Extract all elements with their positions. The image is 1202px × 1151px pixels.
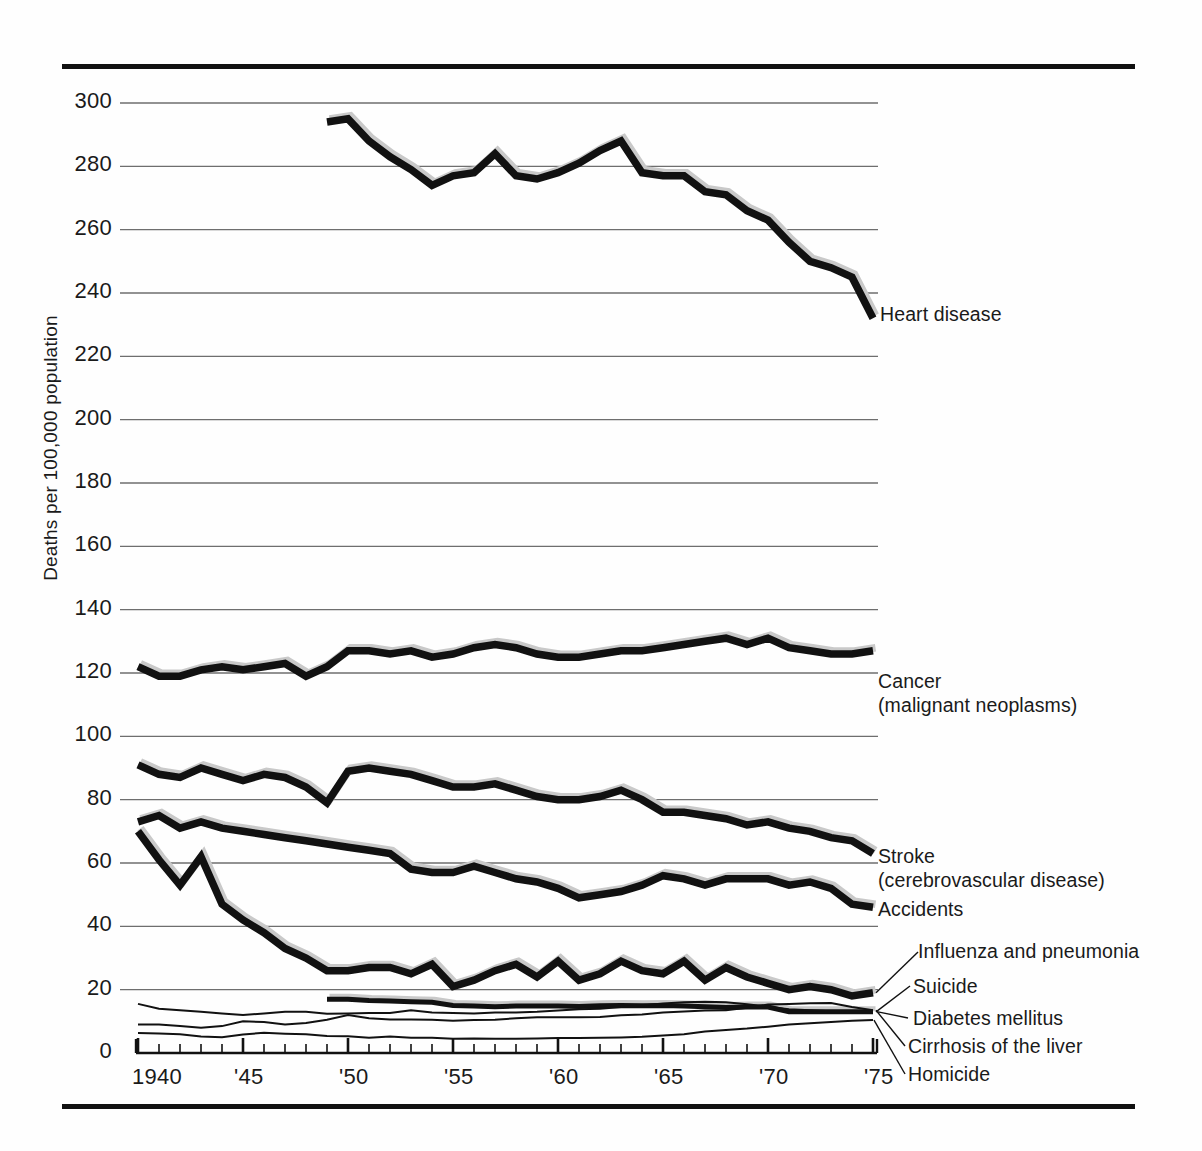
x-tick-label: 1940 (132, 1064, 182, 1090)
series-label-influenza: Influenza and pneumonia (918, 940, 1139, 964)
series-line (138, 765, 873, 854)
y-tick-label: 300 (48, 88, 112, 114)
series-line (327, 119, 873, 318)
leader-line (876, 1010, 905, 1046)
series-line (138, 831, 873, 996)
y-tick-label: 180 (48, 468, 112, 494)
leader-line (878, 1012, 908, 1018)
x-tick-label: '70 (759, 1064, 789, 1090)
series-label-suicide: Suicide (913, 975, 978, 999)
y-tick-label: 120 (48, 658, 112, 684)
series-shadow (141, 813, 876, 905)
leader-line (876, 986, 910, 1012)
series-label-cancer: Cancer (malignant neoplasms) (878, 670, 1077, 718)
y-tick-label: 260 (48, 215, 112, 241)
series-label-homicide: Homicide (908, 1063, 990, 1087)
x-tick-label: '65 (654, 1064, 684, 1090)
y-tick-label: 280 (48, 151, 112, 177)
series-label-diabetes: Diabetes mellitus (913, 1007, 1063, 1031)
y-tick-label: 200 (48, 405, 112, 431)
series-label-stroke: Stroke (cerebrovascular disease) (878, 845, 1105, 893)
y-tick-label: 140 (48, 595, 112, 621)
x-tick-label: '45 (234, 1064, 264, 1090)
series-label-stroke-line1: Stroke (878, 845, 935, 867)
x-tick-label: '75 (864, 1064, 894, 1090)
x-tick-label: '50 (339, 1064, 369, 1090)
y-tick-label: 80 (48, 785, 112, 811)
series-line (138, 638, 873, 676)
leader-line (876, 952, 918, 993)
series-label-cirrhosis: Cirrhosis of the liver (908, 1035, 1083, 1059)
y-tick-label: 20 (48, 975, 112, 1001)
series-label-cancer-line1: Cancer (878, 670, 941, 692)
y-tick-label: 160 (48, 531, 112, 557)
series-label-cancer-line2: (malignant neoplasms) (878, 694, 1077, 716)
series-label-stroke-line2: (cerebrovascular disease) (878, 869, 1105, 891)
figure-page: Deaths per 100,000 population Heart dise… (0, 0, 1202, 1151)
y-tick-label: 240 (48, 278, 112, 304)
y-tick-label: 220 (48, 341, 112, 367)
series-line (138, 816, 873, 908)
y-tick-label: 0 (48, 1038, 112, 1064)
x-tick-label: '55 (444, 1064, 474, 1090)
y-tick-label: 100 (48, 721, 112, 747)
series-line (138, 1020, 873, 1039)
x-tick-label: '60 (549, 1064, 579, 1090)
series-label-heart-disease: Heart disease (880, 303, 1002, 327)
y-tick-label: 40 (48, 911, 112, 937)
line-chart (0, 0, 1202, 1151)
series-label-accidents: Accidents (878, 898, 963, 922)
y-tick-label: 60 (48, 848, 112, 874)
